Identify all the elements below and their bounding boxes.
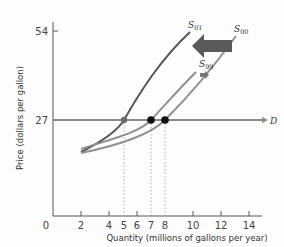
x-axis-title: Quantity (millions of gallons per year) (106, 233, 267, 243)
x-tick-label-4: 4 (106, 220, 112, 231)
demand-label: D (269, 116, 277, 126)
label-s01: S01 (188, 20, 202, 32)
x-tick-label-14: 14 (243, 220, 256, 231)
y-tick-label-54: 54 (35, 26, 48, 37)
supply-demand-chart: 54 27 0 2 4 5 6 7 8 10 12 14 Quantity (m… (0, 0, 284, 247)
supply-curve-s01 (81, 32, 190, 152)
equilibrium-point-s99 (147, 116, 155, 124)
supply-shift-arrow-left-icon (192, 34, 232, 58)
chart-frame: 54 27 0 2 4 5 6 7 8 10 12 14 Quantity (m… (0, 0, 284, 247)
x-tick-label-6: 6 (134, 220, 140, 231)
x-tick-label-2: 2 (78, 220, 84, 231)
x-tick-label-7: 7 (148, 220, 154, 231)
x-tick-label-5: 5 (121, 220, 127, 231)
supply-curve-s00 (81, 36, 236, 153)
x-tick-label-0: 0 (43, 220, 49, 231)
equilibrium-point-s01 (121, 117, 127, 123)
label-s00: S00 (234, 24, 248, 36)
y-axis-title: Price (dollars per gallon) (15, 66, 25, 170)
x-tick-label-8: 8 (162, 220, 168, 231)
supply-curve-s99 (81, 72, 196, 149)
y-tick-label-27: 27 (35, 115, 48, 126)
equilibrium-point-s00 (161, 116, 169, 124)
label-s99: S99 (199, 59, 213, 71)
demand-arrowhead-icon (262, 117, 268, 123)
x-tick-label-12: 12 (215, 220, 228, 231)
x-tick-label-10: 10 (187, 220, 200, 231)
